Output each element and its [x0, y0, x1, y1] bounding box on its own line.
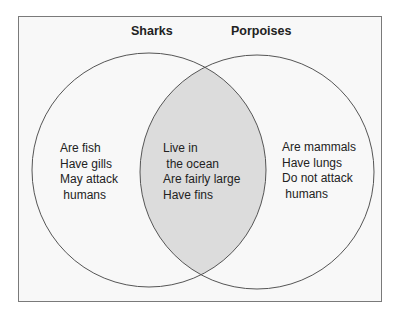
- list-item: Are fairly large: [163, 172, 240, 188]
- porpoises-items: Are mammals Have lungs Do not attack hum…: [282, 140, 356, 202]
- sharks-title: Sharks: [131, 24, 173, 38]
- porpoises-title: Porpoises: [231, 24, 291, 38]
- list-item: Are mammals: [282, 140, 356, 156]
- list-item: May attack: [60, 172, 118, 188]
- list-item: Have gills: [60, 157, 118, 173]
- sharks-items: Are fish Have gills May attack humans: [60, 141, 118, 203]
- list-item: Live in: [163, 141, 240, 157]
- list-item: Do not attack: [282, 171, 356, 187]
- list-item: the ocean: [163, 157, 240, 173]
- overlap-items: Live in the ocean Are fairly large Have …: [163, 141, 240, 203]
- list-item: Have lungs: [282, 156, 356, 172]
- list-item: Are fish: [60, 141, 118, 157]
- list-item: humans: [60, 188, 118, 204]
- list-item: Have fins: [163, 188, 240, 204]
- list-item: humans: [282, 187, 356, 203]
